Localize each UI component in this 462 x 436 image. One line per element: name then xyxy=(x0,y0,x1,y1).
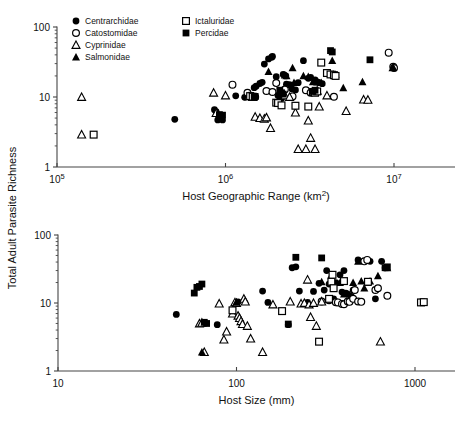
data-point xyxy=(332,73,339,80)
x-tick-label: 10 xyxy=(52,378,64,389)
data-point xyxy=(358,298,365,305)
y-tick-label: 1 xyxy=(45,366,51,377)
data-point xyxy=(78,93,86,101)
data-point xyxy=(173,311,180,318)
data-point xyxy=(304,276,312,284)
filled-square-icon xyxy=(183,30,190,37)
data-point xyxy=(307,134,315,142)
open-square-icon xyxy=(183,18,190,25)
x-axis-label: Host Geographic Range (km2) xyxy=(182,189,330,202)
data-point xyxy=(171,116,178,123)
series-ictaluridae xyxy=(229,271,427,345)
scatter-figure: 110100105106107Host Geographic Range (km… xyxy=(0,0,462,436)
data-point xyxy=(307,313,315,321)
data-point xyxy=(341,267,348,274)
legend-label: Centrarchidae xyxy=(85,16,139,26)
data-point xyxy=(220,335,228,343)
legend: CentrarchidaeCatostomidaeCyprinidaeSalmo… xyxy=(72,16,234,62)
data-point xyxy=(341,278,348,285)
data-point xyxy=(247,334,255,342)
data-point xyxy=(375,285,382,292)
data-point xyxy=(203,320,210,327)
data-point xyxy=(286,297,294,305)
data-point xyxy=(278,102,285,109)
filled-circle-icon xyxy=(73,18,80,25)
data-point xyxy=(312,87,319,94)
data-point xyxy=(265,68,273,76)
data-point xyxy=(214,321,221,328)
legend-label: Ictaluridae xyxy=(195,16,234,26)
legend-label: Percidae xyxy=(195,28,229,38)
data-point xyxy=(252,93,259,100)
data-point xyxy=(273,73,280,80)
data-point xyxy=(323,91,331,99)
data-point xyxy=(339,84,347,92)
data-point xyxy=(351,287,358,294)
data-point xyxy=(294,145,302,153)
data-point xyxy=(267,124,275,132)
x-tick-label: 100 xyxy=(228,378,245,389)
data-point xyxy=(292,102,299,109)
legend-label: Cyprinidae xyxy=(85,40,126,50)
data-point xyxy=(364,257,371,264)
data-point xyxy=(279,308,286,315)
legend-item-percidae: Percidae xyxy=(183,28,229,38)
data-point xyxy=(229,307,236,314)
data-point xyxy=(329,49,336,56)
data-point xyxy=(384,263,391,270)
data-point xyxy=(330,285,337,292)
data-point xyxy=(342,107,350,115)
legend-label: Catostomidae xyxy=(85,28,138,38)
y-tick-label: 10 xyxy=(40,298,52,309)
data-point xyxy=(302,145,310,153)
open-triangle-icon xyxy=(72,41,80,49)
legend-item-catostomidae: Catostomidae xyxy=(73,28,138,38)
data-point xyxy=(285,321,292,328)
data-point xyxy=(305,103,312,110)
data-point xyxy=(199,281,206,288)
panel-bottom: 110100101001000Host Size (mm) xyxy=(34,230,455,407)
data-point xyxy=(365,278,372,285)
data-point xyxy=(385,49,392,56)
data-point xyxy=(328,57,336,65)
data-point xyxy=(372,295,379,302)
data-point xyxy=(296,288,303,295)
data-point xyxy=(292,87,299,94)
data-point xyxy=(269,53,276,60)
data-point xyxy=(223,327,231,335)
legend-item-centrarchidae: Centrarchidae xyxy=(73,16,139,26)
data-point xyxy=(215,299,223,307)
data-point xyxy=(219,112,226,119)
x-tick-label: 107 xyxy=(386,172,401,185)
y-axis-label: Total Adult Parasite Richness xyxy=(6,146,18,289)
data-point xyxy=(384,292,391,299)
data-point xyxy=(292,254,299,261)
data-point xyxy=(328,278,335,285)
x-axis-label: Host Size (mm) xyxy=(219,394,295,406)
data-point xyxy=(315,102,323,110)
data-point xyxy=(259,348,267,356)
data-point xyxy=(358,78,366,86)
data-point xyxy=(329,271,336,278)
data-point xyxy=(289,64,297,72)
filled-triangle-icon xyxy=(72,53,80,61)
data-point xyxy=(310,288,317,295)
legend-label: Salmonidae xyxy=(85,52,130,62)
legend-item-salmonidae: Salmonidae xyxy=(72,52,130,62)
data-point xyxy=(292,263,299,270)
data-point xyxy=(311,145,319,153)
legend-item-ictaluridae: Ictaluridae xyxy=(183,16,235,26)
data-point xyxy=(259,79,266,86)
data-point xyxy=(300,57,307,64)
series-ictaluridae xyxy=(90,59,339,138)
y-tick-label: 1 xyxy=(44,162,50,173)
data-point xyxy=(229,81,236,88)
data-point xyxy=(312,322,320,330)
data-point xyxy=(269,89,276,96)
data-point xyxy=(376,338,384,346)
data-point xyxy=(318,59,325,66)
x-tick-label: 105 xyxy=(49,172,64,185)
legend-item-cyprinidae: Cyprinidae xyxy=(72,40,126,50)
data-point xyxy=(374,272,382,280)
data-point xyxy=(367,56,374,63)
